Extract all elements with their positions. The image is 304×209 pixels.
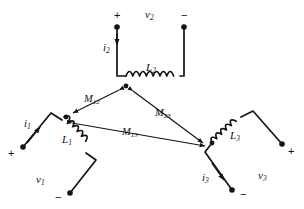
L3-upper-lead [241, 111, 282, 144]
L1-plus-terminal-node [20, 144, 26, 150]
L3-polarity-dot [210, 141, 215, 146]
L2-left-lead [117, 27, 126, 76]
v1-label: v1 [36, 174, 45, 185]
v3-plus-sign: + [288, 146, 294, 157]
L2-right-lead [180, 27, 184, 76]
L3-label: L3 [230, 130, 240, 141]
v2-minus-sign: − [181, 10, 187, 21]
L2-minus-terminal-node [181, 24, 187, 30]
M12-label: M12 [84, 94, 100, 105]
v2-label: v2 [145, 9, 154, 20]
v3-label: v3 [258, 170, 267, 181]
L3-lower-lead [205, 143, 232, 190]
v1-minus-sign: − [55, 192, 61, 203]
M13-arrow [72, 123, 205, 146]
L2-label: L2 [146, 62, 156, 73]
L1-polarity-dot [64, 115, 69, 120]
M23-label: M23 [155, 108, 171, 119]
M13-label: M13 [122, 127, 138, 138]
i3-current-arrow [212, 163, 224, 180]
i3-label: i3 [202, 172, 209, 183]
L2-plus-terminal-node [114, 24, 120, 30]
coil-branch-L2 [114, 24, 187, 88]
i2-label: i2 [103, 42, 110, 53]
v2-plus-sign: + [114, 10, 120, 21]
v1-plus-sign: + [8, 148, 14, 159]
v3-minus-sign: − [240, 189, 246, 200]
coil-branch-L3 [205, 111, 285, 193]
circuit-diagram: + − v2 i2 L2 + − v1 i1 L1 + − v3 i3 L3 M… [0, 0, 304, 209]
i1-label: i1 [24, 118, 31, 129]
L1-lower-lead [70, 153, 96, 193]
L2-polarity-dot [124, 84, 129, 89]
L1-minus-terminal-node [67, 190, 73, 196]
L3-plus-terminal-node [279, 141, 285, 147]
L1-label: L1 [62, 134, 72, 145]
L3-minus-terminal-node [229, 187, 235, 193]
